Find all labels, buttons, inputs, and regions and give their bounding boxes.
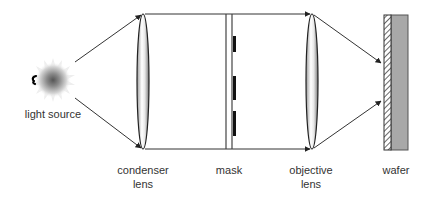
- label-condenser-line1: condenser: [108, 163, 178, 177]
- mask-pattern-1: [233, 36, 236, 52]
- ray-converge-top: [314, 15, 381, 63]
- label-objective-line2: lens: [276, 177, 346, 191]
- wafer: [384, 15, 408, 150]
- ray-source-top: [75, 15, 141, 62]
- ray-source-bottom: [75, 98, 141, 148]
- mask-pattern-3: [233, 111, 236, 136]
- ray-converge-bottom: [314, 101, 381, 148]
- wafer-substrate: [391, 15, 408, 150]
- light-source: [31, 58, 75, 102]
- label-objective-line1: objective: [276, 163, 346, 177]
- condenser-lens: [137, 14, 149, 149]
- mask-pattern-2: [233, 76, 236, 100]
- label-mask: mask: [199, 163, 259, 177]
- mask: [226, 14, 236, 149]
- label-light-source: light source: [18, 107, 88, 121]
- objective-lens: [306, 14, 318, 149]
- label-condenser-line2: lens: [108, 177, 178, 191]
- light-glow: [35, 62, 71, 98]
- label-wafer: wafer: [366, 163, 426, 177]
- photoresist-layer: [384, 15, 391, 150]
